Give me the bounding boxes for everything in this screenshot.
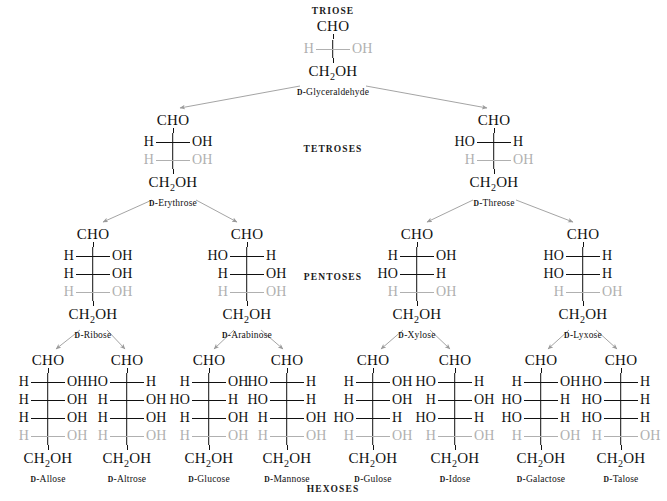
substituent-left: HO (494, 409, 523, 427)
substituent-left: H (46, 247, 75, 265)
ch2oh-suffix: OH (335, 63, 357, 79)
horizontal-bond (524, 418, 558, 419)
molecule-talose: CHOHOHHOHHOHHOHCH2OHD-Talose (561, 352, 667, 484)
substituent-right: OH (435, 283, 464, 301)
substituent-right: OH (639, 427, 667, 445)
horizontal-bond (356, 436, 390, 437)
horizontal-bond (400, 292, 434, 293)
ch2oh-suffix: OH (249, 306, 271, 322)
substituent-left: H (536, 283, 565, 301)
horizontal-bond (156, 160, 190, 161)
substituent-left: HO (574, 373, 603, 391)
horizontal-bond (604, 382, 638, 383)
horizontal-bond (604, 418, 638, 419)
horizontal-bond (438, 418, 472, 419)
horizontal-bond (356, 400, 390, 401)
sugar-name-text: Talose (613, 474, 639, 484)
substituent-left: HO (240, 373, 269, 391)
substituent-left: H (240, 409, 269, 427)
substituent-left: HO (536, 265, 565, 283)
hydroxymethyl-group-label: CH2OH (434, 174, 554, 196)
substituent-left: H (370, 247, 399, 265)
stereocenter-row: HOH (126, 133, 220, 151)
d-configuration-prefix: D (473, 199, 479, 208)
substituent-right: OH (191, 133, 220, 151)
ch2oh-prefix: CH (516, 450, 537, 466)
d-configuration-prefix: D (517, 475, 523, 484)
d-configuration-prefix: D (75, 331, 81, 340)
substituent-left: H (494, 373, 523, 391)
horizontal-bond (110, 418, 144, 419)
sugar-name-text: Idose (449, 474, 471, 484)
stereocenter-row: HOH (370, 247, 464, 265)
substituent-left: HO (494, 391, 523, 409)
substituent-right: OH (111, 265, 140, 283)
hydroxymethyl-group-label: CH2OH (523, 306, 643, 328)
ch2oh-prefix: CH (469, 174, 490, 190)
d-configuration-prefix: D (603, 475, 609, 484)
substituent-left: H (200, 283, 229, 301)
ch2oh-prefix: CH (392, 306, 413, 322)
substituent-right: H (639, 373, 667, 391)
substituent-left: HO (408, 409, 437, 427)
d-configuration-prefix: D (564, 331, 570, 340)
stereocenter-rows: HOHHOHHOH (370, 247, 464, 301)
substituent-left: HO (326, 409, 355, 427)
sugar-name-text: Xylose (408, 330, 436, 340)
hydroxymethyl-group-label: CH2OH (113, 174, 233, 196)
backbone-top-bond (333, 34, 334, 39)
sugar-name-label-threose: D-Threose (434, 198, 554, 208)
stereocenter-row: HOH (536, 283, 630, 301)
stereocenter-row: HOH (126, 151, 220, 169)
substituent-left: HO (162, 391, 191, 409)
category-label-triose: TRIOSE (243, 6, 423, 16)
ch2oh-prefix: CH (308, 63, 329, 79)
substituent-left: H (80, 391, 109, 409)
stereocenter-row: HOH (574, 427, 667, 445)
sugar-name-text: Galactose (526, 474, 565, 484)
ch2oh-prefix: CH (262, 450, 283, 466)
stereocenter-row: HOH (574, 391, 667, 409)
stereocenter-row: HOH (536, 265, 630, 283)
sugar-name-text: Threose (483, 198, 515, 208)
horizontal-bond (110, 382, 144, 383)
substituent-left: H (326, 427, 355, 445)
ch2oh-prefix: CH (430, 450, 451, 466)
horizontal-bond (270, 382, 304, 383)
horizontal-bond (230, 274, 264, 275)
sugar-name-text: Allose (40, 474, 66, 484)
sugar-name-label-arabinose: D-Arabinose (187, 330, 307, 340)
stereocenter-row: HOH (46, 265, 140, 283)
sugar-name-text: Mannose (273, 474, 309, 484)
stereocenter-row: HOH (447, 133, 541, 151)
substituent-right: H (435, 265, 464, 283)
hydroxymethyl-group-label: CH2OH (273, 63, 393, 85)
horizontal-bond (566, 274, 600, 275)
substituent-right: OH (265, 283, 294, 301)
substituent-left: H (326, 391, 355, 409)
molecule-lyxose: CHOHOHHOHHOHCH2OHD-Lyxose (523, 226, 643, 340)
ch2oh-prefix: CH (222, 306, 243, 322)
substituent-left: HO (200, 247, 229, 265)
horizontal-bond (438, 400, 472, 401)
stereocenter-row: HOH (200, 265, 294, 283)
horizontal-bond (192, 418, 226, 419)
substituent-left: HO (370, 265, 399, 283)
horizontal-bond (192, 400, 226, 401)
aldehyde-group-label: CHO (561, 352, 667, 368)
stereocenter-row: HOH (370, 283, 464, 301)
substituent-left: H (162, 409, 191, 427)
substituent-left: H (408, 427, 437, 445)
sugar-name-label-xylose: D-Xylose (357, 330, 477, 340)
substituent-left: H (408, 391, 437, 409)
molecule-erythrose: CHOHOHHOHCH2OHD-Erythrose (113, 112, 233, 208)
horizontal-bond (270, 418, 304, 419)
hydroxymethyl-group-label: CH2OH (357, 306, 477, 328)
horizontal-bond (524, 436, 558, 437)
horizontal-bond (110, 400, 144, 401)
stereocenter-rows: HOHHOHHOH (200, 247, 294, 301)
d-configuration-prefix: D (30, 475, 36, 484)
ch2oh-suffix: OH (457, 450, 479, 466)
horizontal-bond (76, 256, 110, 257)
substituent-left: HO (536, 247, 565, 265)
